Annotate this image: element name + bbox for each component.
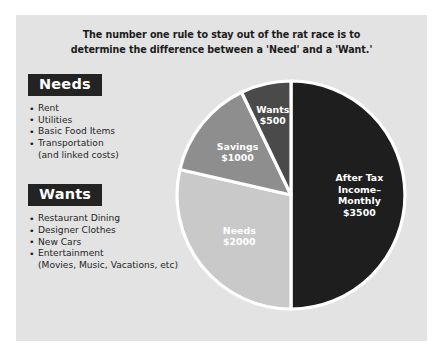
list-item-label: Utilities	[38, 115, 72, 125]
bullet-icon: •	[29, 126, 35, 138]
page-title: The number one rule to stay out of the r…	[30, 28, 413, 57]
list-item-label: Restaurant Dining	[38, 213, 120, 223]
bullet-icon: •	[29, 248, 35, 260]
infographic-canvas: The number one rule to stay out of the r…	[0, 0, 443, 356]
list-item-label: (Movies, Music, Vacations, etc)	[38, 260, 178, 270]
list-item-label: Transportation	[38, 138, 104, 148]
list-item-label: New Cars	[38, 237, 81, 247]
bullet-icon: •	[29, 236, 35, 248]
list-item-label: Rent	[38, 103, 59, 113]
bullet-icon: •	[29, 138, 35, 150]
list-item-label: Entertainment	[38, 248, 104, 258]
slice-label-savings: Savings$1000	[217, 141, 259, 163]
slice-label-needs: Needs$2000	[223, 225, 256, 247]
bullet-icon: •	[29, 114, 35, 126]
bullet-icon: •	[29, 213, 35, 225]
pie-chart: After TaxIncome–Monthly$3500Needs$2000Sa…	[174, 78, 408, 312]
list-item-label: Basic Food Items	[38, 126, 115, 136]
bullet-icon: •	[29, 103, 35, 115]
slice-label-wants: Wants$500	[256, 104, 289, 126]
title-line-2: determine the difference between a 'Need…	[30, 43, 413, 58]
list-item-label: Designer Clothes	[38, 225, 116, 235]
list-item-label: (and linked costs)	[38, 150, 119, 160]
needs-badge: Needs	[28, 74, 102, 96]
title-line-1: The number one rule to stay out of the r…	[30, 28, 413, 43]
wants-badge: Wants	[28, 184, 102, 206]
pie-chart-svg: After TaxIncome–Monthly$3500Needs$2000Sa…	[174, 78, 408, 312]
bullet-icon: •	[29, 225, 35, 237]
